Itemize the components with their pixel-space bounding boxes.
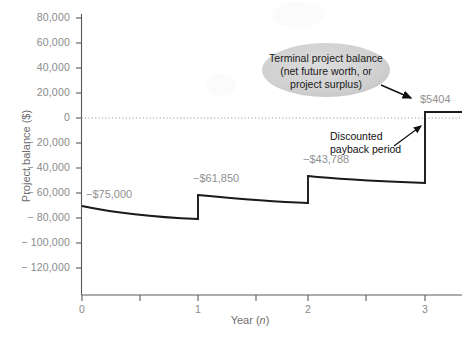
data-label-year0: −$75,000 [86,188,132,200]
y-tick-label: − 60,000 [0,186,70,198]
x-tick-marks [82,295,425,301]
terminal-balance-callout-text: Terminal project balance (net future wor… [262,52,390,91]
y-tick-label: 0 [0,111,70,123]
y-tick-marks [76,18,82,268]
y-tick-label: 40,000 [0,61,70,73]
callout-line-1: Terminal project balance [269,52,383,64]
y-tick-label: − 100,000 [0,236,70,248]
y-tick-label: − 40,000 [0,161,70,173]
x-tick-label: 0 [67,303,97,315]
data-label-year1: −$61,850 [193,172,239,184]
x-axis-title: Year (n) [195,314,305,326]
y-tick-label: − 20,000 [0,136,70,148]
data-label-year3: $5404 [420,93,451,105]
y-tick-label: 60,000 [0,36,70,48]
y-tick-label: 80,000 [0,11,70,23]
y-tick-label: − 120,000 [0,261,70,273]
callout-line-2: (net future worth, or [280,65,372,77]
y-axis-title: Project balance ($) [20,86,32,226]
callout-line-3: project surplus) [290,78,362,90]
payback-line-1: Discounted [330,130,383,142]
project-balance-curve [82,112,450,219]
y-tick-label: 20,000 [0,86,70,98]
x-tick-label: 3 [410,303,440,315]
discounted-payback-chart: 80,000 60,000 40,000 20,000 0 − 20,000 −… [0,0,465,341]
y-tick-label: − 80,000 [0,211,70,223]
discounted-payback-callout-text: Discounted payback period [330,130,426,156]
payback-line-2: payback period [330,143,401,155]
